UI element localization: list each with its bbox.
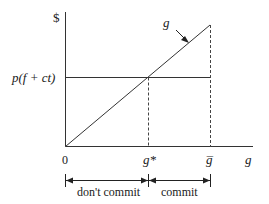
max-label: g̅	[206, 152, 213, 167]
x-axis-label: g	[245, 152, 252, 167]
arrowhead-right-icon	[141, 178, 148, 184]
arrowhead-icon	[181, 36, 189, 43]
arrowhead-right-icon	[203, 178, 210, 184]
commitment-diagram: $ p(f + ct) g 0 g* g̅ g don't commit com…	[0, 0, 269, 204]
curve-label: g	[163, 15, 170, 30]
commit-label: commit	[161, 185, 198, 199]
origin-label: 0	[62, 153, 68, 167]
dont-commit-label: don't commit	[77, 185, 141, 199]
cost-line-label: p(f + ct)	[11, 70, 55, 85]
g-line	[66, 25, 211, 147]
arrowhead-left-icon	[149, 178, 156, 184]
arrowhead-left-icon	[66, 178, 73, 184]
threshold-label: g*	[143, 152, 157, 167]
y-axis-label: $	[53, 10, 60, 25]
